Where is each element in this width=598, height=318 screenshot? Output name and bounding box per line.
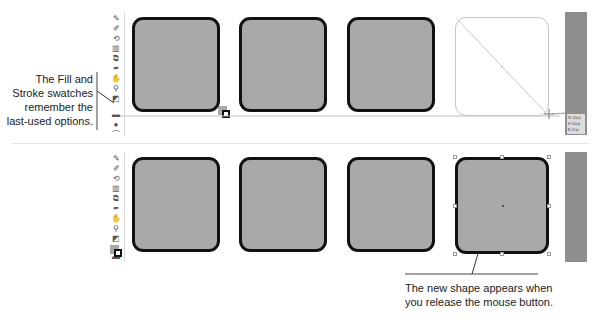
selection-handle-bottom-right[interactable] (547, 252, 551, 256)
selection-handle-left[interactable] (453, 204, 457, 208)
hand-icon[interactable]: ✋ (110, 214, 122, 223)
rounded-rectangle-3[interactable] (347, 157, 435, 252)
callout-new-shape: The new shape appears when you release t… (405, 281, 555, 309)
dimension-tooltip: W: 124 pt H: 124 pt R: 12 pt (567, 114, 585, 134)
selection-handle-top-right[interactable] (547, 155, 551, 159)
selection-handle-right[interactable] (547, 204, 551, 208)
brush-icon[interactable]: ✐ (110, 164, 122, 173)
rotate-icon[interactable]: ⟲ (110, 174, 122, 183)
default-colors-icon[interactable]: ◩ (110, 234, 122, 243)
chart-icon[interactable]: ▥ (110, 184, 122, 193)
properties-panel-bottom (565, 152, 587, 262)
selection-handle-bottom-left[interactable] (453, 252, 457, 256)
tooltip-radius: R: 12 pt (568, 127, 584, 133)
zoom-icon[interactable]: ⚲ (110, 224, 122, 233)
selection-handle-top[interactable] (500, 155, 504, 159)
selection-handle-bottom[interactable] (500, 252, 504, 256)
rounded-rectangle-1[interactable] (132, 157, 220, 252)
callout-line-4: last-used options. (0, 114, 93, 128)
callout-line-1: The new shape appears when (405, 281, 555, 295)
artboard-icon[interactable]: ⧉ (110, 194, 122, 203)
callout-line-2: Stroke swatches (0, 86, 93, 100)
callout-line-3: remember the (0, 100, 93, 114)
eyedropper-icon[interactable]: ✒ (110, 204, 122, 213)
callout-fill-stroke: The Fill and Stroke swatches remember th… (0, 72, 93, 128)
rounded-rectangle-2[interactable] (239, 157, 327, 252)
pen-icon[interactable]: ✎ (110, 154, 122, 163)
callout-line-1: The Fill and (0, 72, 93, 86)
selection-handle-top-left[interactable] (453, 155, 457, 159)
stroke-swatch[interactable] (114, 249, 122, 257)
center-point (502, 205, 504, 207)
callout-line-2: you release the mouse button. (405, 295, 555, 309)
